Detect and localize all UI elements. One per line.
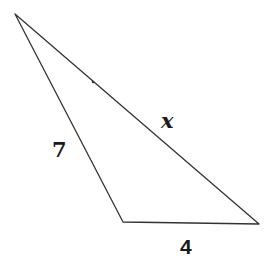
triangle-diagram: 7 x 4 (0, 0, 271, 269)
side-label-bottom: 4 (180, 235, 192, 258)
triangle-shape (15, 14, 259, 224)
midpoint-dot (92, 81, 95, 84)
side-label-hypotenuse: x (160, 108, 174, 133)
side-label-left: 7 (52, 137, 67, 162)
